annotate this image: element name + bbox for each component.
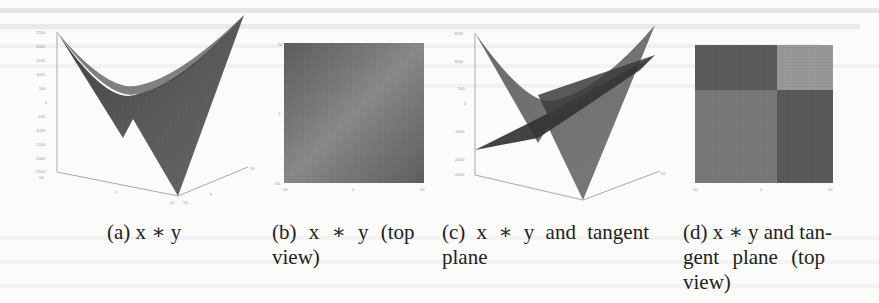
caption-b: (b) x ∗ y (top view) [272, 220, 442, 270]
svg-text:500: 500 [39, 86, 46, 91]
svg-text:-2000: -2000 [35, 156, 46, 161]
svg-text:0: 0 [760, 187, 763, 192]
svg-text:y: y [210, 191, 212, 196]
svg-text:50: 50 [250, 166, 255, 171]
svg-text:2500: 2500 [454, 31, 464, 36]
caption-d: (d) x ∗ y and tan- gent plane (top view) [683, 220, 853, 295]
caption-a: (a) x ∗ y [107, 220, 181, 245]
svg-text:-50: -50 [282, 187, 289, 192]
svg-text:1000: 1000 [36, 72, 46, 77]
svg-text:0: 0 [464, 101, 467, 106]
axis-ticks: -50050 [692, 187, 833, 192]
caption-d-line-2: gent plane (top [683, 245, 853, 270]
svg-text:1500: 1500 [36, 58, 46, 63]
svg-text:-2500: -2500 [454, 172, 465, 177]
svg-text:0: 0 [45, 100, 48, 105]
caption-c: (c) x ∗ y and tangent plane [442, 220, 682, 270]
svg-text:2000: 2000 [36, 44, 46, 49]
subfigure-c-surface-tangent-plane: 25001500500 0-1000-2000 -250050 [450, 15, 685, 215]
caption-c-line-1: (c) x ∗ y and tangent [442, 220, 682, 245]
svg-text:-500: -500 [37, 114, 46, 119]
saddle-surface [57, 15, 244, 196]
svg-text:500: 500 [458, 86, 465, 91]
svg-text:50: 50 [661, 171, 666, 176]
svg-text:-1000: -1000 [35, 128, 46, 133]
caption-c-line-2: plane [442, 245, 682, 270]
caption-d-line-3: view) [683, 270, 853, 295]
svg-text:-1500: -1500 [35, 142, 46, 147]
svg-text:1500: 1500 [454, 59, 464, 64]
svg-text:-50: -50 [38, 175, 45, 180]
svg-text:-1000: -1000 [454, 129, 465, 134]
svg-text:0: 0 [278, 111, 281, 116]
subfigure-b-top-view: 500-50 -50050 [270, 35, 445, 210]
svg-text:-2500: -2500 [35, 169, 46, 174]
svg-text:50: 50 [828, 187, 833, 192]
subfigure-a-surface-plot: 250020001500 10005000 -500-1000-1500 -20… [30, 15, 260, 215]
svg-text:2500: 2500 [36, 30, 46, 35]
svg-text:50: 50 [170, 200, 175, 205]
svg-text:50: 50 [278, 42, 283, 47]
svg-text:-50: -50 [692, 187, 699, 192]
caption-b-line-2: view) [272, 245, 442, 270]
svg-text:50: 50 [420, 187, 425, 192]
caption-d-line-1: (d) x ∗ y and tan- [683, 220, 853, 245]
caption-a-line: (a) x ∗ y [107, 220, 181, 245]
svg-text:x: x [115, 189, 117, 194]
svg-text:0: 0 [352, 187, 355, 192]
svg-text:-50: -50 [182, 200, 189, 205]
caption-b-line-1: (b) x ∗ y (top [272, 220, 442, 245]
subfigure-d-top-view-tangent-plane: -50050 [690, 35, 850, 210]
svg-text:-50: -50 [274, 181, 281, 186]
svg-text:-2000: -2000 [454, 157, 465, 162]
